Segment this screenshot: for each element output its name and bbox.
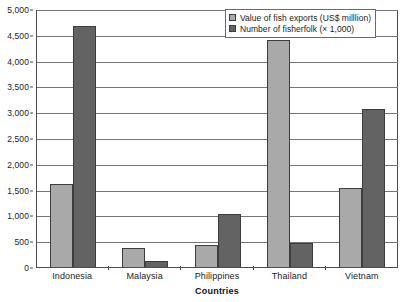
y-axis: 05001,0001,5002,0002,5003,0003,5004,0004… bbox=[0, 10, 33, 268]
y-axis-tick-label: 0 bbox=[24, 264, 29, 273]
y-axis-tick-label: 4,500 bbox=[7, 31, 29, 40]
y-axis-tick-mark bbox=[30, 113, 33, 114]
x-axis-category-label: Thailand bbox=[253, 271, 325, 282]
legend-swatch-icon bbox=[229, 25, 236, 32]
y-axis-tick-mark bbox=[30, 10, 33, 11]
bar-group bbox=[326, 10, 398, 267]
x-axis-title: Countries bbox=[36, 286, 398, 296]
y-axis-tick-label: 1,000 bbox=[7, 212, 29, 221]
grouped-bar-chart: 05001,0001,5002,0002,5003,0003,5004,0004… bbox=[0, 0, 405, 302]
legend-swatch-icon bbox=[229, 14, 236, 21]
legend-item: Number of fisherfolk (× 1,000) bbox=[229, 23, 371, 34]
bar-group bbox=[37, 10, 109, 267]
y-axis-tick-label: 500 bbox=[15, 238, 29, 247]
legend-label: Number of fisherfolk (× 1,000) bbox=[240, 24, 354, 34]
plot-area bbox=[36, 10, 398, 268]
bar bbox=[50, 184, 73, 267]
bar bbox=[195, 245, 218, 267]
bar-group bbox=[181, 10, 253, 267]
legend-label: Value of fish exports (US$ milllion) bbox=[240, 13, 371, 23]
x-axis-category-label: Vietnam bbox=[326, 271, 398, 282]
y-axis-tick-label: 3,500 bbox=[7, 83, 29, 92]
chart-legend: Value of fish exports (US$ milllion)Numb… bbox=[225, 9, 376, 38]
y-axis-tick-mark bbox=[30, 242, 33, 243]
y-axis-tick-mark bbox=[30, 268, 33, 269]
y-axis-tick-label: 2,000 bbox=[7, 160, 29, 169]
y-axis-tick-mark bbox=[30, 87, 33, 88]
bars-layer bbox=[37, 10, 398, 267]
bar bbox=[339, 188, 362, 267]
x-axis-category-label: Indonesia bbox=[36, 271, 108, 282]
y-axis-tick-label: 5,000 bbox=[7, 6, 29, 15]
x-axis-category-label: Malaysia bbox=[108, 271, 180, 282]
y-axis-tick-label: 3,000 bbox=[7, 109, 29, 118]
bar-group bbox=[109, 10, 181, 267]
bar bbox=[122, 248, 145, 267]
bar bbox=[362, 109, 385, 267]
bar bbox=[73, 26, 96, 267]
y-axis-tick-mark bbox=[30, 216, 33, 217]
y-axis-tick-mark bbox=[30, 164, 33, 165]
bar bbox=[267, 40, 290, 267]
y-axis-tick-mark bbox=[30, 61, 33, 62]
y-axis-tick-mark bbox=[30, 139, 33, 140]
legend-item: Value of fish exports (US$ milllion) bbox=[229, 12, 371, 23]
bar bbox=[145, 261, 168, 267]
bar-group bbox=[254, 10, 326, 267]
y-axis-tick-mark bbox=[30, 190, 33, 191]
y-axis-tick-label: 1,500 bbox=[7, 186, 29, 195]
bar bbox=[290, 243, 313, 267]
x-axis-category-label: Philippines bbox=[181, 271, 253, 282]
y-axis-tick-mark bbox=[30, 35, 33, 36]
y-axis-tick-label: 2,500 bbox=[7, 135, 29, 144]
x-axis-category-labels: IndonesiaMalaysiaPhilippinesThailandViet… bbox=[36, 271, 398, 282]
y-axis-tick-label: 4,000 bbox=[7, 57, 29, 66]
bar bbox=[218, 214, 241, 267]
